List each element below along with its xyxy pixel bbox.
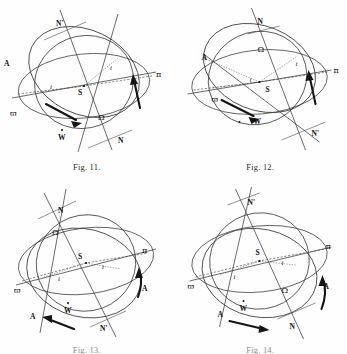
center-point-dot: [259, 81, 261, 83]
polar-axis-line: [60, 10, 112, 150]
antapex-dot: [61, 129, 63, 131]
node-tick-bottom: [90, 311, 126, 327]
label-antapex: W: [254, 117, 262, 126]
label-perihelion-left: ϖ: [212, 95, 219, 104]
node-tick-top: [44, 22, 86, 40]
motion-arrow-left: [42, 315, 74, 329]
label-perihelion-right: π: [334, 66, 339, 75]
label-node-bottom: N': [100, 324, 108, 333]
label-perihelion-right: π: [326, 242, 331, 251]
label-antapex: W: [240, 304, 248, 313]
antapex-dot: [67, 302, 69, 304]
figure-fig13: N N' Ω ϖ π A A S W i i: [0, 177, 174, 354]
label-perihelion-left: ϖ: [14, 286, 21, 295]
figure-grid: N' N Ω ϖ π A S W i i Fig. 11.: [0, 0, 347, 354]
label-apex-right: A: [142, 284, 148, 293]
label-node-symbol: Ω: [98, 113, 105, 122]
fig11-drawing: N' N Ω ϖ π A S W i i: [0, 0, 174, 160]
label-perihelion-left: ϖ: [10, 109, 17, 118]
label-node-top: N': [56, 19, 64, 28]
node-tick-bottom: [278, 303, 316, 319]
motion-arrow-left: [46, 104, 82, 128]
label-node-symbol: Ω: [282, 286, 289, 295]
secondary-axis-line: [78, 14, 118, 152]
label-inclination-left: i: [234, 273, 236, 281]
fig14-drawing: N' N Ω ϖ π A A S W i i: [174, 177, 347, 349]
label-antapex: W: [58, 133, 66, 142]
label-inclination-right: i: [102, 263, 104, 271]
label-node-symbol: Ω: [52, 228, 59, 237]
label-center: S: [78, 252, 82, 261]
label-node-symbol: Ω: [258, 45, 265, 54]
label-node-bottom: N: [118, 136, 124, 145]
label-apex-right: A: [324, 282, 330, 291]
label-center: S: [266, 85, 270, 94]
label-inclination-right: i: [296, 60, 298, 68]
secondary-circle-ellipse: [20, 21, 147, 144]
label-node-bottom: N': [312, 129, 320, 138]
label-inclination-left: i: [250, 76, 252, 84]
label-inclination-right: i: [110, 64, 112, 72]
label-apex-left: A: [30, 312, 36, 321]
label-inclination-right: i: [282, 259, 284, 267]
figure-cell-fig14: N' N Ω ϖ π A A S W i i Fig. 14.: [174, 177, 347, 354]
label-node-top: N': [248, 198, 256, 207]
orbit-plane-ellipse: [13, 9, 154, 135]
figure-cell-fig11: N' N Ω ϖ π A S W i i Fig. 11.: [0, 0, 174, 177]
caption-fig12: Fig. 12.: [174, 162, 347, 172]
orbit-plane-ellipse: [194, 218, 326, 328]
label-perihelion-right: π: [142, 246, 147, 255]
motion-arrow-left: [230, 321, 270, 333]
fig12-drawing: N N' Ω ϖ π A S W i i: [174, 0, 347, 160]
label-center: S: [256, 248, 260, 257]
label-node-top: N: [258, 17, 264, 26]
fig13-drawing: N N' Ω ϖ π A A S W i i: [0, 177, 174, 349]
label-apex-left: A: [218, 310, 224, 319]
label-node-bottom: N: [290, 322, 296, 331]
caption-fig11: Fig. 11.: [0, 162, 174, 172]
label-node-top: N: [58, 206, 64, 215]
motion-arrow-right: [319, 275, 327, 309]
center-point-dot: [85, 262, 87, 264]
inclination-dashed-left: [220, 261, 260, 275]
figure-fig11: N' N Ω ϖ π A S W i i: [0, 0, 174, 177]
label-perihelion-right: π: [156, 70, 161, 79]
plate-page: N' N Ω ϖ π A S W i i Fig. 11.: [0, 0, 347, 354]
label-antapex: W: [64, 306, 72, 315]
node-tick-top: [38, 201, 76, 219]
antapex-dot: [239, 121, 241, 123]
secondary-axis-line: [204, 54, 320, 142]
label-perihelion-left: ϖ: [188, 282, 195, 291]
center-point-dot: [83, 85, 85, 87]
figure-fig14: N' N Ω ϖ π A A S W i i: [174, 177, 347, 354]
caption-fig13: Fig. 13.: [0, 345, 174, 354]
label-inclination-left: i: [58, 275, 60, 283]
figure-cell-fig13: N N' Ω ϖ π A A S W i i Fig. 13.: [0, 177, 174, 354]
figure-cell-fig12: N N' Ω ϖ π A S W i i Fig. 12.: [174, 0, 347, 177]
label-apex-left: A: [4, 59, 10, 68]
figure-fig12: N N' Ω ϖ π A S W i i: [174, 0, 347, 177]
label-apex-left: A: [202, 53, 208, 62]
label-inclination-left: i: [50, 83, 52, 91]
center-point-dot: [259, 260, 261, 262]
caption-fig14: Fig. 14.: [174, 345, 347, 354]
label-center: S: [78, 88, 82, 97]
antapex-dot: [243, 300, 245, 302]
